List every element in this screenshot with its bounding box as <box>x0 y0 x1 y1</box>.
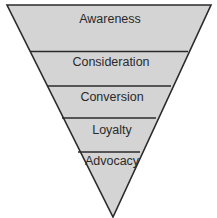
funnel-shape <box>7 5 211 217</box>
stage-advocacy: Advocacy <box>85 154 140 168</box>
stage-awareness: Awareness <box>79 12 141 26</box>
stage-consideration: Consideration <box>72 55 149 69</box>
funnel-diagram: Awareness Consideration Conversion Loyal… <box>0 0 217 218</box>
stage-loyalty: Loyalty <box>92 123 132 137</box>
stage-conversion: Conversion <box>80 90 143 104</box>
